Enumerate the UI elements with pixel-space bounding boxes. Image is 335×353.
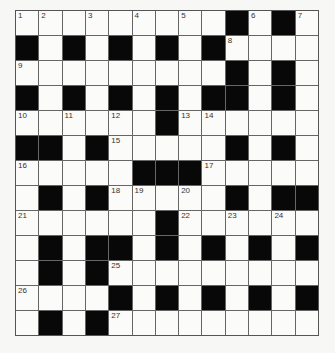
answer-cell[interactable] xyxy=(226,311,248,335)
answer-cell[interactable] xyxy=(226,286,248,310)
answer-cell[interactable]: 15 xyxy=(109,136,131,160)
answer-cell[interactable] xyxy=(63,286,85,310)
answer-cell[interactable]: 14 xyxy=(202,111,224,135)
answer-cell[interactable] xyxy=(133,136,155,160)
answer-cell[interactable] xyxy=(109,161,131,185)
answer-cell[interactable]: 6 xyxy=(249,11,271,35)
answer-cell[interactable] xyxy=(296,161,318,185)
answer-cell[interactable] xyxy=(16,261,38,285)
answer-cell[interactable] xyxy=(63,211,85,235)
answer-cell[interactable] xyxy=(156,186,178,210)
answer-cell[interactable] xyxy=(296,261,318,285)
answer-cell[interactable] xyxy=(179,36,201,60)
answer-cell[interactable] xyxy=(156,136,178,160)
answer-cell[interactable]: 25 xyxy=(109,261,131,285)
answer-cell[interactable] xyxy=(39,211,61,235)
answer-cell[interactable] xyxy=(179,236,201,260)
answer-cell[interactable] xyxy=(133,211,155,235)
answer-cell[interactable]: 11 xyxy=(63,111,85,135)
answer-cell[interactable]: 22 xyxy=(179,211,201,235)
answer-cell[interactable]: 5 xyxy=(179,11,201,35)
answer-cell[interactable] xyxy=(272,311,294,335)
answer-cell[interactable]: 10 xyxy=(16,111,38,135)
answer-cell[interactable] xyxy=(86,286,108,310)
answer-cell[interactable] xyxy=(63,186,85,210)
answer-cell[interactable] xyxy=(202,261,224,285)
answer-cell[interactable] xyxy=(226,111,248,135)
answer-cell[interactable] xyxy=(63,136,85,160)
answer-cell[interactable] xyxy=(179,261,201,285)
answer-cell[interactable] xyxy=(63,161,85,185)
answer-cell[interactable] xyxy=(86,86,108,110)
answer-cell[interactable] xyxy=(133,311,155,335)
answer-cell[interactable]: 9 xyxy=(16,61,38,85)
answer-cell[interactable] xyxy=(272,161,294,185)
answer-cell[interactable] xyxy=(63,311,85,335)
answer-cell[interactable] xyxy=(226,236,248,260)
answer-cell[interactable] xyxy=(202,11,224,35)
answer-cell[interactable] xyxy=(39,86,61,110)
answer-cell[interactable] xyxy=(249,261,271,285)
answer-cell[interactable] xyxy=(296,211,318,235)
answer-cell[interactable] xyxy=(156,311,178,335)
answer-cell[interactable] xyxy=(272,236,294,260)
answer-cell[interactable]: 16 xyxy=(16,161,38,185)
answer-cell[interactable] xyxy=(133,261,155,285)
answer-cell[interactable] xyxy=(249,86,271,110)
answer-cell[interactable] xyxy=(202,211,224,235)
answer-cell[interactable] xyxy=(179,136,201,160)
answer-cell[interactable] xyxy=(109,211,131,235)
answer-cell[interactable] xyxy=(133,36,155,60)
answer-cell[interactable] xyxy=(86,111,108,135)
answer-cell[interactable] xyxy=(296,36,318,60)
answer-cell[interactable] xyxy=(179,286,201,310)
answer-cell[interactable] xyxy=(39,286,61,310)
answer-cell[interactable] xyxy=(249,311,271,335)
answer-cell[interactable] xyxy=(179,86,201,110)
answer-cell[interactable] xyxy=(272,286,294,310)
answer-cell[interactable] xyxy=(226,261,248,285)
answer-cell[interactable] xyxy=(39,111,61,135)
answer-cell[interactable] xyxy=(133,111,155,135)
answer-cell[interactable] xyxy=(179,311,201,335)
answer-cell[interactable]: 26 xyxy=(16,286,38,310)
answer-cell[interactable] xyxy=(202,186,224,210)
answer-cell[interactable] xyxy=(86,36,108,60)
answer-cell[interactable] xyxy=(39,61,61,85)
answer-cell[interactable] xyxy=(63,61,85,85)
answer-cell[interactable] xyxy=(16,186,38,210)
answer-cell[interactable]: 13 xyxy=(179,111,201,135)
answer-cell[interactable] xyxy=(226,161,248,185)
answer-cell[interactable]: 8 xyxy=(226,36,248,60)
answer-cell[interactable] xyxy=(272,36,294,60)
answer-cell[interactable] xyxy=(179,61,201,85)
answer-cell[interactable] xyxy=(202,136,224,160)
answer-cell[interactable]: 19 xyxy=(133,186,155,210)
answer-cell[interactable] xyxy=(109,11,131,35)
answer-cell[interactable] xyxy=(249,186,271,210)
answer-cell[interactable]: 18 xyxy=(109,186,131,210)
answer-cell[interactable] xyxy=(249,36,271,60)
answer-cell[interactable]: 17 xyxy=(202,161,224,185)
answer-cell[interactable] xyxy=(272,261,294,285)
answer-cell[interactable] xyxy=(296,311,318,335)
answer-cell[interactable] xyxy=(16,311,38,335)
answer-cell[interactable]: 27 xyxy=(109,311,131,335)
answer-cell[interactable] xyxy=(296,136,318,160)
answer-cell[interactable]: 7 xyxy=(296,11,318,35)
answer-cell[interactable] xyxy=(296,111,318,135)
answer-cell[interactable] xyxy=(249,111,271,135)
answer-cell[interactable] xyxy=(63,261,85,285)
answer-cell[interactable]: 20 xyxy=(179,186,201,210)
answer-cell[interactable] xyxy=(39,161,61,185)
answer-cell[interactable]: 24 xyxy=(272,211,294,235)
answer-cell[interactable] xyxy=(133,61,155,85)
answer-cell[interactable] xyxy=(272,111,294,135)
answer-cell[interactable] xyxy=(86,61,108,85)
answer-cell[interactable] xyxy=(109,61,131,85)
answer-cell[interactable] xyxy=(249,136,271,160)
answer-cell[interactable] xyxy=(296,86,318,110)
answer-cell[interactable] xyxy=(156,61,178,85)
answer-cell[interactable]: 23 xyxy=(226,211,248,235)
answer-cell[interactable]: 3 xyxy=(86,11,108,35)
